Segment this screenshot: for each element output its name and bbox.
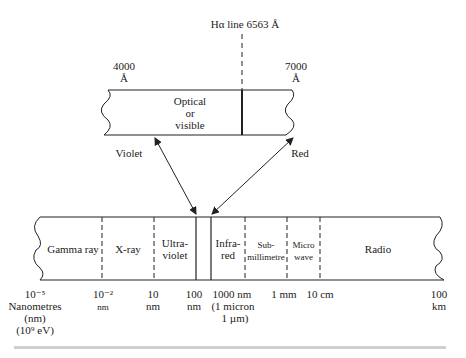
tick-1-um: 1 µm): [210, 312, 260, 324]
optical-right-unit: Å: [276, 72, 316, 84]
optical-band-line-1: Optical: [150, 95, 230, 107]
violet-label: Violet: [104, 147, 154, 159]
violet-arrow: [155, 138, 196, 214]
bottom-divider: [14, 346, 446, 349]
tick-1e-2-unit: nm: [88, 301, 118, 313]
tick-nanometres: Nanometres: [5, 300, 65, 312]
tick-10nm-unit: nm: [138, 300, 168, 312]
tick-1000nm: 1000 nm: [206, 288, 258, 300]
tick-100km: 100: [424, 288, 454, 300]
band-gamma-ray: Gamma ray: [44, 243, 102, 255]
optical-band-line-3: visible: [150, 119, 230, 131]
tick-1-micron: (1 micron: [206, 300, 260, 312]
band-ultraviolet-1: Ultra-: [154, 237, 196, 249]
tick-1e-5: 10⁻⁵: [20, 288, 50, 300]
tick-1mm: 1 mm: [266, 288, 302, 300]
tick-10cm: 10 cm: [302, 288, 338, 300]
band-infrared-1: Infra-: [211, 237, 245, 249]
band-radio: Radio: [320, 243, 436, 255]
h-alpha-label: Hα line 6563 Å: [195, 18, 295, 30]
optical-right-value: 7000: [276, 60, 316, 72]
red-label: Red: [280, 147, 320, 159]
band-submm-2: millimetre: [245, 251, 287, 263]
tick-100nm-unit: nm: [181, 300, 207, 312]
optical-left-value: 4000: [104, 60, 144, 72]
band-infrared-2: red: [211, 249, 245, 261]
tick-ev: (10⁹ eV): [5, 324, 65, 336]
tick-100km-unit: km: [424, 300, 454, 312]
tick-10nm: 10: [138, 288, 168, 300]
band-x-ray: X-ray: [102, 243, 154, 255]
optical-band-line-2: or: [150, 107, 230, 119]
band-microwave-2: wave: [287, 251, 320, 263]
band-submm-1: Sub-: [245, 239, 287, 251]
band-microwave-1: Micro: [287, 239, 320, 251]
tick-nm-unit: (nm): [5, 312, 65, 324]
optical-left-unit: Å: [104, 72, 144, 84]
tick-100nm: 100: [181, 288, 207, 300]
band-ultraviolet-2: violet: [154, 249, 196, 261]
tick-1e-2: 10⁻²: [88, 288, 118, 300]
